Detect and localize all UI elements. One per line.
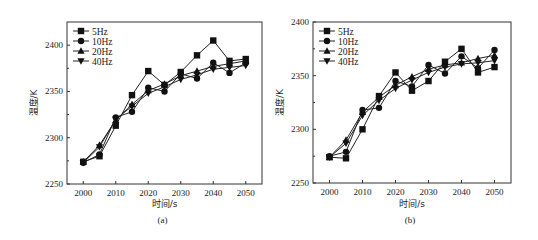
data-point bbox=[210, 37, 216, 43]
panel-label: (b) bbox=[405, 215, 416, 225]
legend-marker bbox=[324, 28, 330, 34]
series-line bbox=[330, 55, 495, 157]
data-point bbox=[458, 53, 464, 59]
data-point bbox=[392, 69, 398, 75]
y-tick-label: 2250 bbox=[291, 178, 310, 188]
legend-item: 40Hz bbox=[319, 57, 359, 67]
x-tick-label: 2020 bbox=[387, 187, 406, 197]
y-tick-label: 2250 bbox=[45, 179, 64, 189]
x-tick-label: 2050 bbox=[486, 187, 505, 197]
legend-label: 5Hz bbox=[92, 27, 108, 37]
x-tick-label: 2000 bbox=[74, 188, 93, 198]
legend-label: 10Hz bbox=[338, 37, 359, 47]
legend-item: 20Hz bbox=[319, 47, 359, 57]
data-point bbox=[392, 86, 399, 93]
legend: 5Hz10Hz20Hz40Hz bbox=[319, 27, 359, 67]
y-tick-label: 2400 bbox=[45, 40, 64, 50]
x-axis-title: 时间/s bbox=[152, 198, 178, 209]
chart-panel-a: 2000201020202030204020502250230023502400… bbox=[28, 22, 262, 225]
legend-label: 20Hz bbox=[338, 47, 359, 57]
legend-item: 20Hz bbox=[73, 47, 113, 57]
legend-item: 40Hz bbox=[73, 57, 113, 67]
data-point bbox=[96, 151, 102, 157]
x-axis-title: 时间/s bbox=[399, 198, 425, 209]
x-tick-label: 2000 bbox=[321, 187, 340, 197]
data-point bbox=[145, 90, 152, 97]
y-tick-label: 2300 bbox=[291, 124, 310, 134]
data-point bbox=[425, 78, 431, 84]
data-point bbox=[343, 155, 349, 161]
series-20hz bbox=[80, 57, 250, 165]
panel-label: (a) bbox=[158, 215, 168, 225]
data-point bbox=[409, 83, 415, 89]
chart-panel-b: 2000201020202030204020502250230023502400… bbox=[274, 17, 511, 225]
x-tick-label: 2050 bbox=[237, 188, 256, 198]
x-tick-label: 2010 bbox=[107, 188, 126, 198]
series-line bbox=[83, 63, 246, 163]
x-tick-label: 2040 bbox=[453, 187, 472, 197]
legend-item: 5Hz bbox=[73, 27, 108, 37]
series-line bbox=[83, 66, 246, 163]
x-tick-label: 2010 bbox=[354, 187, 373, 197]
y-tick-label: 2300 bbox=[45, 133, 64, 143]
y-tick-label: 2350 bbox=[291, 71, 310, 81]
x-tick-label: 2040 bbox=[204, 188, 223, 198]
y-tick-label: 2350 bbox=[45, 86, 64, 96]
data-point bbox=[376, 105, 382, 111]
series-10hz bbox=[80, 60, 249, 166]
figure: 2000201020202030204020502250230023502400… bbox=[0, 0, 538, 240]
legend-label: 10Hz bbox=[92, 37, 113, 47]
data-point bbox=[491, 64, 497, 70]
legend-marker bbox=[324, 38, 330, 44]
data-point bbox=[442, 70, 448, 76]
x-tick-label: 2030 bbox=[420, 187, 439, 197]
legend-label: 40Hz bbox=[338, 57, 359, 67]
series-20hz bbox=[326, 51, 498, 160]
legend-item: 5Hz bbox=[319, 27, 354, 37]
legend-marker bbox=[78, 28, 84, 34]
x-tick-label: 2020 bbox=[139, 188, 158, 198]
legend-label: 20Hz bbox=[92, 47, 113, 57]
legend-item: 10Hz bbox=[73, 37, 113, 47]
legend-item: 10Hz bbox=[319, 37, 359, 47]
data-point bbox=[425, 70, 432, 77]
series-40hz bbox=[80, 63, 250, 167]
data-point bbox=[129, 92, 135, 98]
data-point bbox=[145, 68, 151, 74]
data-point bbox=[458, 46, 464, 52]
y-tick-label: 2400 bbox=[291, 17, 310, 27]
data-point bbox=[343, 149, 349, 155]
y-axis-title: 温度/K bbox=[274, 88, 285, 116]
data-point bbox=[359, 126, 365, 132]
legend-label: 5Hz bbox=[338, 27, 354, 37]
legend: 5Hz10Hz20Hz40Hz bbox=[73, 27, 113, 67]
data-point bbox=[177, 77, 184, 84]
data-point bbox=[194, 52, 200, 58]
legend-marker bbox=[78, 38, 84, 44]
legend-label: 40Hz bbox=[92, 57, 113, 67]
y-axis-title: 温度/K bbox=[28, 88, 39, 116]
series-line bbox=[83, 61, 246, 162]
x-tick-label: 2030 bbox=[172, 188, 191, 198]
